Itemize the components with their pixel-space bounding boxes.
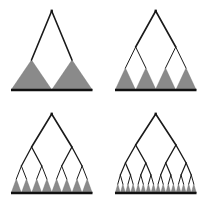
branch-segment bbox=[52, 11, 72, 60]
branch-segment bbox=[165, 163, 170, 175]
branch-segment bbox=[32, 114, 52, 147]
branch-segment bbox=[130, 175, 133, 184]
branch-segment bbox=[140, 163, 145, 175]
branch-segment bbox=[150, 175, 153, 184]
panel-depth-3 bbox=[0, 103, 104, 206]
branch-segment bbox=[140, 175, 143, 184]
branch-segment bbox=[32, 147, 42, 166]
apex-node bbox=[51, 10, 53, 13]
branch-segment bbox=[117, 175, 120, 184]
canopy-triangle bbox=[125, 184, 130, 193]
branch-segment bbox=[21, 147, 31, 166]
panel-svg-2 bbox=[104, 0, 208, 103]
branch-segment bbox=[32, 11, 52, 60]
branch-group bbox=[32, 11, 73, 60]
branch-segment bbox=[191, 175, 194, 184]
canopy-triangle bbox=[115, 184, 120, 193]
canopy-triangle bbox=[145, 184, 150, 193]
canopy-triangle bbox=[72, 179, 82, 193]
branch-segment bbox=[62, 147, 72, 166]
apex-node bbox=[154, 113, 156, 116]
canopy-triangle bbox=[135, 184, 140, 193]
canopy-triangle bbox=[191, 184, 196, 193]
panel-grid bbox=[0, 0, 207, 206]
branch-segment bbox=[125, 163, 130, 175]
branch-segment bbox=[135, 114, 155, 145]
branch-segment bbox=[37, 166, 42, 179]
canopy-triangle bbox=[155, 68, 175, 90]
branch-segment bbox=[175, 47, 185, 68]
branch-segment bbox=[168, 175, 171, 184]
canopy-triangle bbox=[155, 184, 160, 193]
branch-group bbox=[117, 114, 193, 184]
branch-group bbox=[16, 114, 87, 179]
branch-segment bbox=[181, 175, 184, 184]
branch-group bbox=[125, 11, 186, 68]
branch-segment bbox=[165, 47, 175, 68]
triangle-group bbox=[11, 179, 92, 193]
canopy-triangle bbox=[175, 184, 180, 193]
canopy-triangle bbox=[175, 68, 195, 90]
panel-svg-3 bbox=[0, 103, 104, 206]
branch-segment bbox=[186, 163, 191, 175]
branch-segment bbox=[155, 11, 175, 47]
branch-segment bbox=[138, 175, 141, 184]
canopy-triangle bbox=[52, 60, 93, 90]
canopy-triangle bbox=[160, 184, 165, 193]
branch-segment bbox=[160, 163, 165, 175]
figure-root bbox=[0, 0, 207, 206]
canopy-triangle bbox=[115, 68, 135, 90]
branch-segment bbox=[77, 166, 82, 179]
canopy-triangle bbox=[120, 184, 125, 193]
branch-segment bbox=[158, 175, 161, 184]
canopy-triangle bbox=[130, 184, 135, 193]
canopy-triangle bbox=[32, 179, 42, 193]
branch-segment bbox=[160, 175, 163, 184]
branch-segment bbox=[148, 175, 151, 184]
branch-segment bbox=[57, 166, 62, 179]
canopy-triangle bbox=[62, 179, 72, 193]
branch-segment bbox=[188, 175, 191, 184]
panel-depth-4 bbox=[104, 103, 208, 206]
branch-segment bbox=[125, 145, 135, 163]
panel-svg-1 bbox=[0, 0, 104, 103]
branch-segment bbox=[62, 166, 67, 179]
branch-segment bbox=[175, 145, 185, 163]
canopy-triangle bbox=[150, 184, 155, 193]
branch-segment bbox=[120, 163, 125, 175]
panel-depth-2 bbox=[104, 0, 208, 103]
branch-segment bbox=[16, 166, 21, 179]
branch-segment bbox=[125, 47, 135, 68]
triangle-group bbox=[11, 60, 92, 90]
canopy-triangle bbox=[165, 184, 170, 193]
canopy-triangle bbox=[170, 184, 175, 193]
branch-segment bbox=[21, 166, 26, 179]
branch-segment bbox=[82, 166, 87, 179]
canopy-triangle bbox=[186, 184, 191, 193]
branch-segment bbox=[128, 175, 131, 184]
canopy-triangle bbox=[21, 179, 31, 193]
triangle-group bbox=[115, 184, 196, 193]
apex-node bbox=[154, 10, 156, 13]
branch-segment bbox=[135, 47, 145, 68]
panel-depth-1 bbox=[0, 0, 104, 103]
branch-segment bbox=[155, 114, 175, 145]
canopy-triangle bbox=[181, 184, 186, 193]
branch-segment bbox=[178, 175, 181, 184]
canopy-triangle bbox=[140, 184, 145, 193]
canopy-triangle bbox=[11, 179, 21, 193]
branch-segment bbox=[165, 145, 175, 163]
canopy-triangle bbox=[82, 179, 92, 193]
canopy-triangle bbox=[52, 179, 62, 193]
branch-segment bbox=[170, 175, 173, 184]
panel-svg-4 bbox=[104, 103, 208, 206]
branch-segment bbox=[135, 145, 145, 163]
branch-segment bbox=[120, 175, 123, 184]
canopy-triangle bbox=[11, 60, 52, 90]
branch-segment bbox=[42, 166, 47, 179]
branch-segment bbox=[181, 163, 186, 175]
branch-segment bbox=[52, 114, 72, 147]
canopy-triangle bbox=[135, 68, 155, 90]
branch-segment bbox=[135, 11, 155, 47]
branch-segment bbox=[72, 147, 82, 166]
